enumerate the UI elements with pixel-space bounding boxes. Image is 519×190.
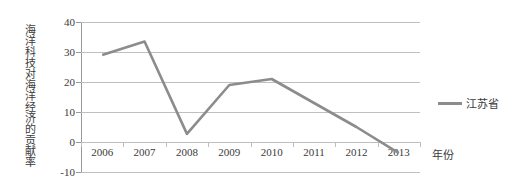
x-axis-tick-mark: [166, 142, 167, 147]
x-axis-title: 年份: [432, 146, 454, 162]
x-axis-tick-label: 2009: [205, 146, 253, 158]
x-axis-tick-label: 2013: [375, 146, 423, 158]
y-axis-tick-label: 30: [45, 46, 75, 58]
y-axis-tick-mark: [76, 82, 81, 83]
y-axis-title: 海洋科技对海洋经济的贡献率: [20, 8, 36, 183]
legend-swatch-jiangsu: [438, 102, 462, 105]
x-axis-tick-mark: [208, 142, 209, 147]
x-axis-tick-label: 2008: [163, 146, 211, 158]
x-axis-tick-mark: [293, 142, 294, 147]
legend: 江苏省: [438, 95, 499, 111]
gridline: [81, 52, 420, 53]
x-axis-tick-label: 2011: [290, 146, 338, 158]
y-axis-tick-labels: 403020100-10: [42, 0, 75, 190]
gridline: [81, 22, 420, 23]
gridline: [81, 112, 420, 113]
x-axis-tick-mark: [378, 142, 379, 147]
y-axis-tick-mark: [76, 112, 81, 113]
y-axis-tick-mark: [76, 172, 81, 173]
x-axis-tick-label: 2007: [121, 146, 169, 158]
y-axis-tick-label: 20: [45, 76, 75, 88]
x-axis-tick-mark: [251, 142, 252, 147]
y-axis-tick-mark: [76, 22, 81, 23]
y-axis-tick-label: 40: [45, 16, 75, 28]
x-axis-tick-label: 2010: [248, 146, 296, 158]
x-axis-tick-label: 2012: [332, 146, 380, 158]
y-axis-tick-label: -10: [45, 166, 75, 178]
x-axis-tick-mark: [123, 142, 124, 147]
y-axis-tick-label: 10: [45, 106, 75, 118]
legend-label-jiangsu: 江苏省: [466, 95, 499, 111]
x-axis-tick-labels: 20062007200820092010201120122013: [81, 146, 420, 166]
x-axis-tick-mark: [420, 142, 421, 147]
line-chart: 海洋科技对海洋经济的贡献率 403020100-10 2006200720082…: [0, 0, 519, 190]
y-axis-tick-label: 0: [45, 136, 75, 148]
gridline: [81, 172, 420, 173]
x-axis-tick-label: 2006: [78, 146, 126, 158]
x-axis-tick-mark: [81, 142, 82, 147]
gridline: [81, 82, 420, 83]
y-axis-tick-mark: [76, 52, 81, 53]
x-axis-tick-mark: [335, 142, 336, 147]
